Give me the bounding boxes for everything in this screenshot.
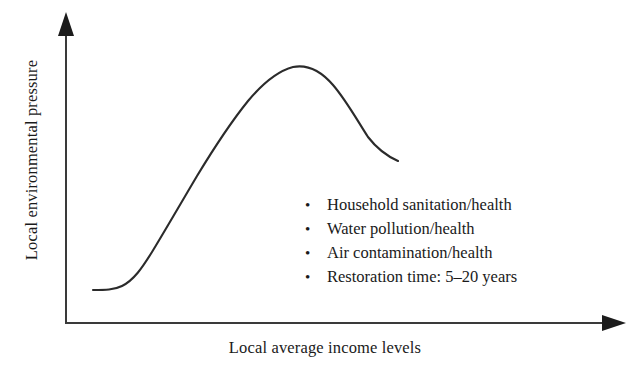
list-item-label: Restoration time: 5–20 years bbox=[327, 265, 517, 289]
list-item: • Restoration time: 5–20 years bbox=[305, 265, 517, 289]
list-item: • Air contamination/health bbox=[305, 241, 517, 265]
environmental-kuznets-curve-figure: Local environmental pressure Local avera… bbox=[0, 0, 644, 375]
chart-canvas bbox=[0, 0, 644, 375]
x-axis-label: Local average income levels bbox=[65, 338, 585, 358]
bullet-icon: • bbox=[305, 217, 327, 241]
bullet-icon: • bbox=[305, 193, 327, 217]
list-item: • Water pollution/health bbox=[305, 217, 517, 241]
list-item: • Household sanitation/health bbox=[305, 193, 517, 217]
list-item-label: Water pollution/health bbox=[327, 217, 475, 241]
annotation-bullet-list: • Household sanitation/health • Water po… bbox=[305, 193, 517, 289]
arrow-up-icon bbox=[58, 12, 74, 36]
bullet-icon: • bbox=[305, 241, 327, 265]
y-axis-label: Local environmental pressure bbox=[22, 10, 48, 310]
list-item-label: Household sanitation/health bbox=[327, 193, 512, 217]
arrow-right-icon bbox=[602, 315, 626, 331]
bullet-icon: • bbox=[305, 265, 327, 289]
list-item-label: Air contamination/health bbox=[327, 241, 492, 265]
